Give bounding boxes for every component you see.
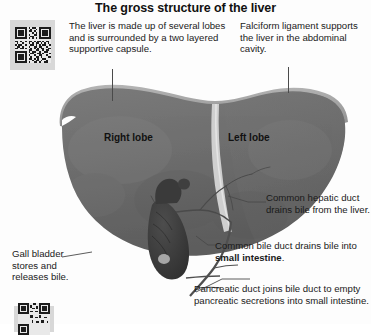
leader-line-lobes: [112, 69, 113, 101]
liver-body: [62, 88, 346, 256]
qr-code-icon: [18, 303, 50, 335]
qr-code-icon: [15, 27, 51, 63]
annotation-falciform-ligament: Falciform ligament supports the liver in…: [240, 20, 365, 55]
annotation-gall-bladder: Gall bladder stores and releases bile.: [12, 248, 90, 283]
bile-duct-text-lead: Common bile duct drains bile into: [215, 240, 357, 251]
bile-duct-emphasis: small intestine: [215, 252, 282, 263]
annotation-lobes: The liver is made up of several lobes an…: [69, 20, 229, 55]
annotation-common-hepatic-duct: Common hepatic duct drains bile from the…: [266, 192, 370, 215]
annotation-common-bile-duct: Common bile duct drains bile into small …: [215, 240, 371, 263]
leader-line-falciform: [288, 67, 289, 93]
annotation-pancreatic-duct: Pancreatic duct joins bile duct to empty…: [194, 283, 371, 306]
label-left-lobe: Left lobe: [228, 132, 270, 143]
label-right-lobe: Right lobe: [104, 132, 153, 143]
qr-code-top[interactable]: [10, 20, 55, 70]
qr-code-bottom[interactable]: [14, 306, 54, 332]
bile-duct-text-tail: .: [282, 252, 285, 263]
